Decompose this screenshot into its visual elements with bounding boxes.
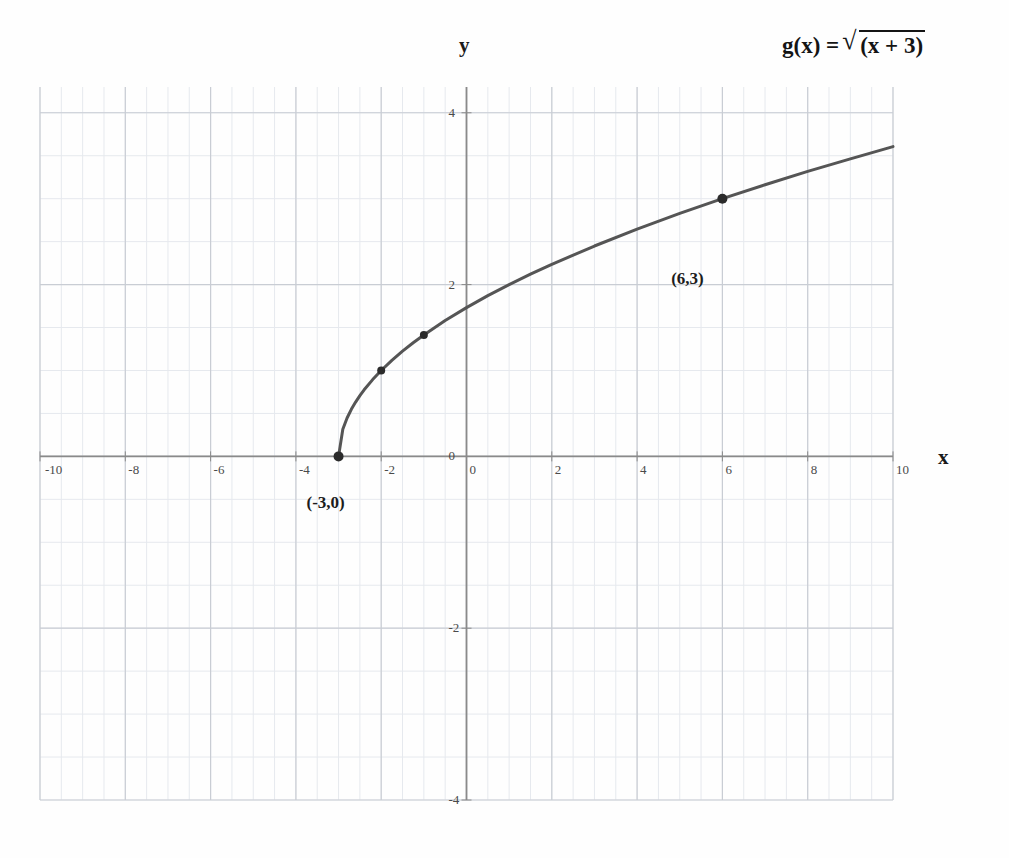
x-tick-label: 2 <box>555 462 562 478</box>
graph-page: g(x) =√(x + 3) y x -10-8-6-4-20246810420… <box>0 0 1009 858</box>
y-tick-label: 2 <box>449 277 456 293</box>
y-tick-label: -2 <box>449 620 460 636</box>
x-tick-label: 4 <box>640 462 647 478</box>
point-annotation: (6,3) <box>671 269 704 289</box>
x-tick-label: 8 <box>811 462 818 478</box>
x-tick-label: -4 <box>299 462 310 478</box>
x-tick-label: -2 <box>384 462 395 478</box>
function-curve <box>339 147 893 457</box>
function-equation: g(x) =√(x + 3) <box>782 30 925 59</box>
equation-left-side: g(x) = <box>782 33 839 58</box>
y-tick-label: 0 <box>449 448 456 464</box>
plot-area <box>40 87 893 800</box>
data-point <box>377 366 385 374</box>
x-tick-label: -10 <box>45 462 62 478</box>
curve-layer <box>40 87 893 800</box>
y-tick-label: 4 <box>449 105 456 121</box>
data-point <box>420 331 428 339</box>
y-tick-label: -4 <box>449 792 460 808</box>
data-point <box>334 451 344 461</box>
square-root-expression: √(x + 3) <box>842 30 925 59</box>
x-tick-label: 0 <box>470 462 477 478</box>
point-annotation: (-3,0) <box>307 493 345 513</box>
y-axis-label: y <box>459 33 470 58</box>
marked-points <box>334 194 728 462</box>
radical-sign-icon: √ <box>842 28 856 54</box>
x-tick-label: -6 <box>214 462 225 478</box>
x-tick-label: -8 <box>128 462 139 478</box>
x-tick-label: 10 <box>896 462 909 478</box>
radicand: (x + 3) <box>859 30 925 59</box>
data-point <box>717 194 727 204</box>
x-tick-label: 6 <box>725 462 732 478</box>
x-axis-label: x <box>938 445 949 470</box>
